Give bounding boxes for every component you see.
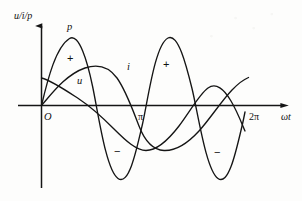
origin-label: O	[44, 112, 52, 123]
x-tick-two-pi: 2π	[249, 112, 259, 122]
y-axis-label: u/i/p	[14, 11, 32, 21]
plus-second-lobe: +	[163, 59, 169, 70]
minus-first-lobe: −	[114, 146, 120, 157]
i-curve-label: i	[127, 62, 130, 73]
current-curve-i	[42, 78, 246, 151]
waveform-figure: u/i/p ωt O π 2π p u i + + − −	[0, 0, 302, 201]
minus-second-lobe: −	[214, 147, 220, 158]
p-curve-label: p	[67, 22, 72, 33]
u-curve-label: u	[77, 76, 82, 87]
x-tick-pi: π	[138, 112, 143, 122]
plus-first-lobe: +	[67, 53, 73, 64]
waveform-plot	[0, 0, 302, 201]
x-axis-label: ωt	[281, 112, 291, 122]
